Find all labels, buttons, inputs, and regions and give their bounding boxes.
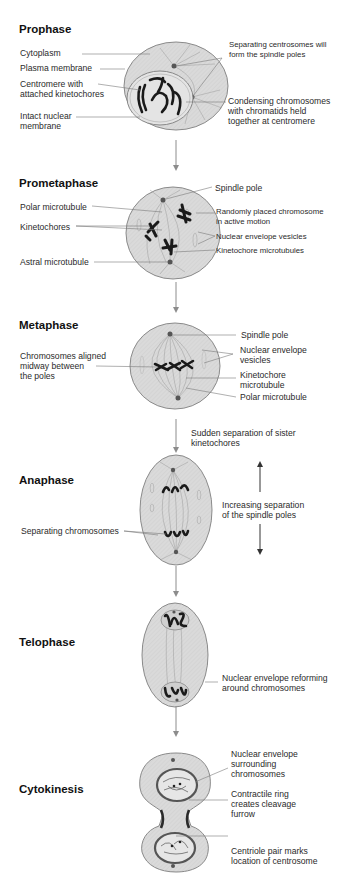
label-increasing-separation: Increasing separation of the spindle pol…	[222, 500, 304, 520]
label-nuclear-envelope-surrounding: Nuclear envelope surrounding chromosomes	[231, 749, 298, 779]
stage-title-metaphase: Metaphase	[19, 319, 78, 331]
label-centromere-kinetochores: Centromere with attached kinetochores	[20, 79, 104, 99]
label-kinetochores: Kinetochores	[20, 222, 70, 232]
metaphase-cell	[130, 323, 220, 409]
label-intact-nuclear-membrane: Intact nuclear membrane	[20, 111, 72, 131]
label-condensing-chromosomes: Condensing chromosomes with chromatids h…	[228, 96, 330, 126]
label-separating-centrosomes: Separating centrosomes will form the spi…	[229, 40, 327, 59]
label-polar-microtubule-meta: Polar microtubule	[240, 392, 307, 402]
label-nuclear-envelope-vesicles: Nuclear envelope vesicles	[216, 232, 307, 242]
label-chromosomes-aligned: Chromosomes aligned midway between the p…	[20, 351, 106, 381]
label-astral-microtubule: Astral microtubule	[20, 257, 89, 267]
label-polar-microtubule: Polar microtubule	[20, 202, 87, 212]
label-contractile-ring: Contractile ring creates cleavage furrow	[231, 789, 296, 819]
stage-title-anaphase: Anaphase	[19, 474, 74, 486]
label-sudden-separation: Sudden separation of sister kinetochores	[191, 428, 296, 448]
label-kinetochore-microtubules: Kinetochore microtubules	[216, 246, 304, 256]
stage-title-cytokinesis: Cytokinesis	[19, 783, 84, 795]
label-cytoplasm: Cytoplasm	[20, 48, 61, 58]
label-centriole-pair: Centriole pair marks location of centros…	[231, 846, 317, 866]
stage-title-prometaphase: Prometaphase	[19, 177, 98, 189]
label-kinetochore-microtubule: Kinetochore microtubule	[240, 370, 286, 390]
mitosis-diagram: Prophase Cytoplasm Plasma membrane Centr…	[0, 0, 343, 876]
stage-title-prophase: Prophase	[19, 23, 71, 35]
anaphase-cell	[140, 455, 212, 565]
label-spindle-pole-meta: Spindle pole	[241, 330, 288, 340]
label-spindle-pole: Spindle pole	[215, 183, 262, 193]
stage-title-telophase: Telophase	[19, 636, 75, 648]
prometaphase-cell	[126, 187, 220, 279]
label-nuclear-envelope-reforming: Nuclear envelope reforming around chromo…	[222, 673, 328, 693]
label-separating-chromosomes: Separating chromosomes	[21, 526, 119, 536]
label-nuclear-envelope-vesicles-meta: Nuclear envelope vesicles	[240, 345, 307, 365]
label-plasma-membrane: Plasma membrane	[20, 63, 92, 73]
cytokinesis-cell	[140, 753, 211, 872]
telophase-cell	[142, 603, 208, 707]
label-random-chromosome: Randomly placed chromosome in active mot…	[216, 207, 323, 226]
